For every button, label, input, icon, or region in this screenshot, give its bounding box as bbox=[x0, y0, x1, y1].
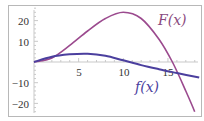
y-tick-label-10: 10 bbox=[18, 36, 30, 48]
label-F: F(x) bbox=[157, 12, 187, 28]
y-tick-label-20: 20 bbox=[18, 15, 30, 27]
y-tick-label-neg20: −20 bbox=[12, 98, 30, 110]
chart: 20 10 −10 −20 5 10 15 F(x) f(x) bbox=[0, 0, 204, 121]
x-tick-label-5: 5 bbox=[76, 66, 82, 78]
y-tick-label-neg10: −10 bbox=[12, 77, 30, 89]
x-tick-label-10: 10 bbox=[119, 66, 131, 78]
label-f: f(x) bbox=[134, 79, 159, 95]
